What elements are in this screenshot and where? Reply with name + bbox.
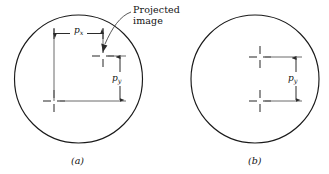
panel-b-group xyxy=(191,15,319,143)
projected-image-label-line2: image xyxy=(133,16,180,27)
py-b-label-subscript: y xyxy=(294,77,298,85)
py-b-dimension-label: py xyxy=(288,73,297,83)
projected-image-leader-arrowhead xyxy=(101,44,107,52)
panel-b-upper-crosshair xyxy=(249,46,271,68)
py-a-label-subscript: y xyxy=(118,77,122,85)
py-b-label-base: p xyxy=(288,73,294,83)
px-label-subscript: x xyxy=(80,29,84,37)
diagram-canvas xyxy=(0,0,329,174)
panel-b-caption: (b) xyxy=(248,155,262,166)
projected-image-label: Projected image xyxy=(133,5,180,26)
figure-container: Projected image px py py (a) (b) xyxy=(0,0,329,174)
panel-a-caption: (a) xyxy=(71,155,84,166)
px-label-base: p xyxy=(74,25,80,35)
panel-b-circle xyxy=(191,15,319,143)
px-dimension-label: px xyxy=(74,25,83,35)
panel-b-lower-crosshair xyxy=(249,90,271,112)
projected-image-label-line1: Projected xyxy=(133,5,180,16)
py-a-dimension-label: py xyxy=(112,73,121,83)
py-a-label-base: p xyxy=(112,73,118,83)
